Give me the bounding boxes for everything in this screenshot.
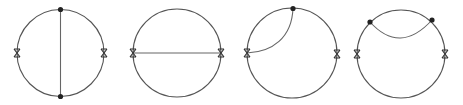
diagram-2 <box>130 9 224 97</box>
curved-propagator <box>247 8 293 53</box>
vertex-dot-left <box>367 19 372 24</box>
vertex-dot-bottom <box>58 94 63 99</box>
outer-loop <box>247 8 337 98</box>
vertex-dot-top <box>58 7 63 12</box>
diagram-1 <box>14 7 107 99</box>
diagram-3 <box>244 6 340 98</box>
curved-propagator <box>370 20 432 38</box>
diagram-4 <box>354 10 448 98</box>
vertex-dot-top <box>290 6 295 11</box>
feynman-diagrams-figure <box>0 0 463 105</box>
vertex-dot-right <box>429 17 434 22</box>
